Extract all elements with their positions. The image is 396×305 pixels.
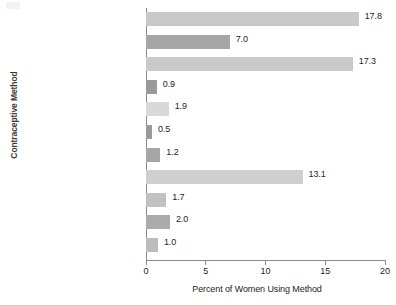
bar-value-label: 0.9 bbox=[163, 79, 175, 89]
bar bbox=[146, 35, 230, 49]
bar-value-label: 17.8 bbox=[365, 11, 382, 21]
bar bbox=[146, 170, 303, 184]
x-tick-mark bbox=[205, 260, 206, 265]
bar-value-label: 1.7 bbox=[172, 192, 184, 202]
bar bbox=[146, 102, 169, 116]
bar-value-label: 13.1 bbox=[309, 169, 326, 179]
bar-row: 17.8 bbox=[146, 8, 385, 31]
bar bbox=[146, 238, 158, 252]
bar-value-label: 17.3 bbox=[359, 56, 376, 66]
x-tick-mark bbox=[385, 260, 386, 265]
bar-row: 1.9 bbox=[146, 98, 385, 121]
bar-row: 13.1 bbox=[146, 166, 385, 189]
bar-value-label: 7.0 bbox=[236, 34, 248, 44]
x-tick-label: 15 bbox=[305, 266, 345, 276]
x-tick-mark bbox=[146, 260, 147, 265]
scan-artifact bbox=[6, 2, 20, 9]
bar-value-label: 0.5 bbox=[158, 124, 170, 134]
bar-row: 1.0 bbox=[146, 234, 385, 257]
bar-row: 2.0 bbox=[146, 211, 385, 234]
bar bbox=[146, 12, 359, 26]
bar-chart: Contraceptive Method 17.87.017.30.91.90.… bbox=[0, 0, 396, 305]
bar-row: 1.7 bbox=[146, 189, 385, 212]
x-tick-label: 5 bbox=[186, 266, 226, 276]
bar bbox=[146, 215, 170, 229]
x-tick-mark bbox=[325, 260, 326, 265]
bar-row: 7.0 bbox=[146, 31, 385, 54]
bar bbox=[146, 125, 152, 139]
bar-row: 17.3 bbox=[146, 53, 385, 76]
bar-row: 0.5 bbox=[146, 121, 385, 144]
bar bbox=[146, 193, 166, 207]
x-tick-label: 10 bbox=[246, 266, 286, 276]
bar-value-label: 2.0 bbox=[176, 214, 188, 224]
x-axis-title: Percent of Women Using Method bbox=[0, 284, 396, 294]
bar-row: 1.2 bbox=[146, 144, 385, 167]
bar-value-label: 1.2 bbox=[166, 147, 178, 157]
bar bbox=[146, 57, 353, 71]
bar-row: 0.9 bbox=[146, 76, 385, 99]
y-axis-title: Contraceptive Method bbox=[9, 40, 19, 190]
x-tick-label: 0 bbox=[126, 266, 166, 276]
bar-value-label: 1.9 bbox=[175, 101, 187, 111]
x-tick-label: 20 bbox=[365, 266, 396, 276]
plot-area: 17.87.017.30.91.90.51.213.11.72.01.0 bbox=[146, 8, 385, 260]
x-tick-mark bbox=[265, 260, 266, 265]
bar-value-label: 1.0 bbox=[164, 237, 176, 247]
bar bbox=[146, 148, 160, 162]
bar bbox=[146, 80, 157, 94]
